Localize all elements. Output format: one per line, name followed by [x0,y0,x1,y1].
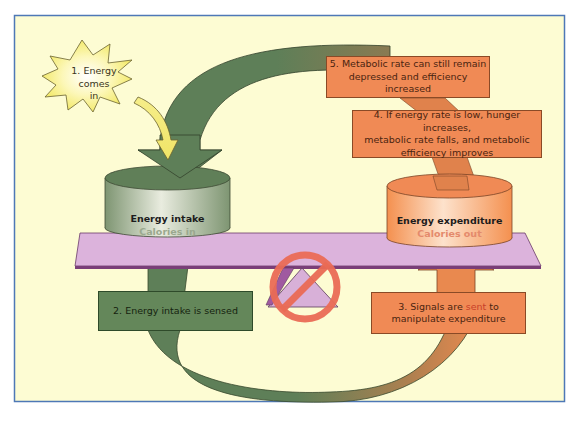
step-1-line-2: in [90,90,99,101]
step-2-box: 2. Energy intake is sensed [98,291,253,331]
step-3-highlight: sent [466,301,487,312]
expenditure-title: Energy expenditure [392,214,507,227]
step-3-prefix: 3. Signals are [398,301,466,312]
intake-subtitle: Calories in [110,225,225,238]
step-3-box: 3. Signals are sent to manipulate expend… [371,292,526,334]
step-1-line-1: 1. Energy comes [71,65,116,89]
step-1-label: 1. Energy comes in [60,65,128,103]
step-5-line-1: 5. Metabolic rate can still remain [330,58,486,71]
step-3-line-1: 3. Signals are sent to [398,301,499,314]
step-4-line-2: metabolic rate falls, and metabolic [364,134,530,147]
intake-title: Energy intake [110,212,225,225]
intake-label: Energy intake Calories in [110,212,225,238]
step-5-box: 5. Metabolic rate can still remain depre… [326,56,490,98]
step-3-suffix: to [486,301,499,312]
step-3-line-2: manipulate expenditure [392,313,506,326]
step-4-line-1: 4. If energy rate is low, hunger increas… [353,109,541,134]
expenditure-label: Energy expenditure Calories out [392,214,507,240]
step-2-text: 2. Energy intake is sensed [113,305,238,318]
step-5-line-2: depressed and efficiency increased [327,71,489,96]
step-4-box: 4. If energy rate is low, hunger increas… [352,110,542,158]
step-4-line-3: efficiency improves [401,147,493,160]
expenditure-subtitle: Calories out [392,227,507,240]
